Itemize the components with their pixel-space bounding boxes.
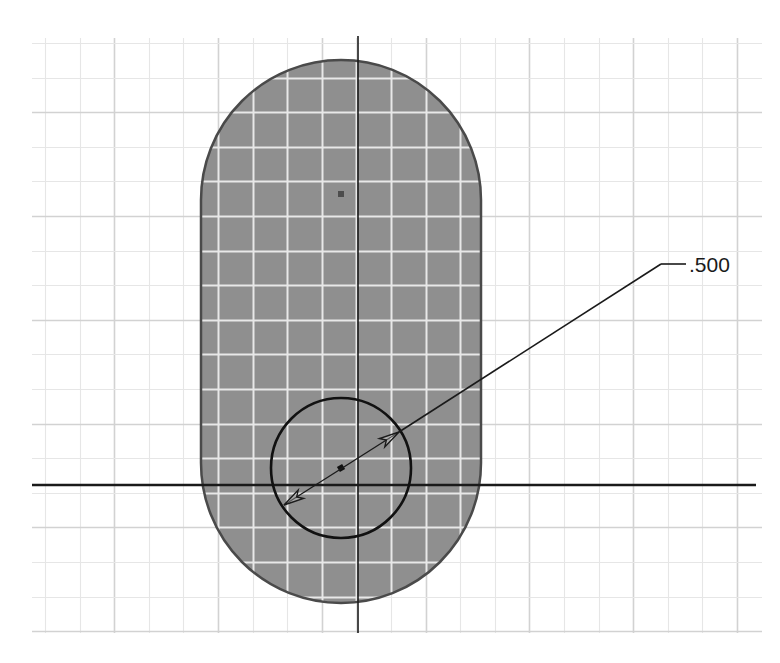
dimension-value-label[interactable]: .500	[689, 253, 730, 276]
slot-shape[interactable]	[201, 60, 481, 603]
sketch-canvas[interactable]: .500	[0, 0, 780, 663]
center-point-icon[interactable]	[338, 191, 344, 197]
